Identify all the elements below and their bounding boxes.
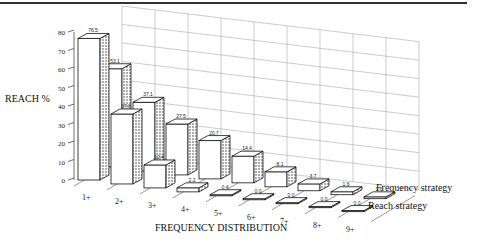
svg-text:8+: 8+	[313, 221, 322, 230]
svg-text:60: 60	[58, 66, 66, 74]
svg-text:2.2: 2.2	[189, 177, 196, 183]
svg-text:1+: 1+	[82, 193, 91, 202]
svg-text:2+: 2+	[115, 197, 124, 206]
svg-text:0.0: 0.0	[321, 196, 328, 202]
svg-text:20.7: 20.7	[209, 130, 219, 136]
svg-text:9+: 9+	[346, 225, 355, 234]
svg-text:53.1: 53.1	[110, 58, 120, 64]
svg-text:40: 40	[58, 103, 66, 111]
svg-text:14.4: 14.4	[242, 145, 252, 151]
svg-text:12.4: 12.4	[154, 154, 164, 160]
svg-text:8.1: 8.1	[277, 161, 284, 167]
svg-text:0.4: 0.4	[222, 184, 229, 190]
svg-text:4+: 4+	[181, 205, 190, 214]
svg-text:76.5: 76.5	[88, 27, 98, 33]
svg-text:3.7: 3.7	[310, 173, 317, 179]
svg-text:10: 10	[58, 159, 66, 167]
legend-reach: Reach strategy	[368, 200, 427, 211]
svg-text:0: 0	[62, 177, 66, 185]
y-axis-label: REACH %	[5, 93, 50, 104]
svg-text:30: 30	[58, 122, 66, 130]
x-axis-label: FREQUENCY DISTRIBUTION	[155, 222, 287, 233]
svg-text:37.1: 37.1	[143, 91, 153, 97]
svg-text:27.5: 27.5	[176, 113, 186, 119]
svg-text:1.6: 1.6	[343, 181, 350, 187]
svg-text:70: 70	[58, 48, 66, 56]
svg-text:6+: 6+	[247, 213, 256, 222]
svg-text:5+: 5+	[214, 209, 223, 218]
svg-text:0.0: 0.0	[255, 188, 262, 194]
chart-figure: 0102030405060708053.137.127.520.714.48.1…	[0, 0, 477, 246]
legend-frequency: Frequency strategy	[376, 182, 452, 193]
svg-text:0.0: 0.0	[288, 192, 295, 198]
svg-text:37.8: 37.8	[121, 103, 131, 109]
svg-text:80: 80	[58, 29, 66, 37]
svg-text:20: 20	[58, 140, 66, 148]
svg-text:3+: 3+	[148, 201, 157, 210]
svg-text:50: 50	[58, 85, 66, 93]
svg-text:0.0: 0.0	[354, 200, 361, 206]
